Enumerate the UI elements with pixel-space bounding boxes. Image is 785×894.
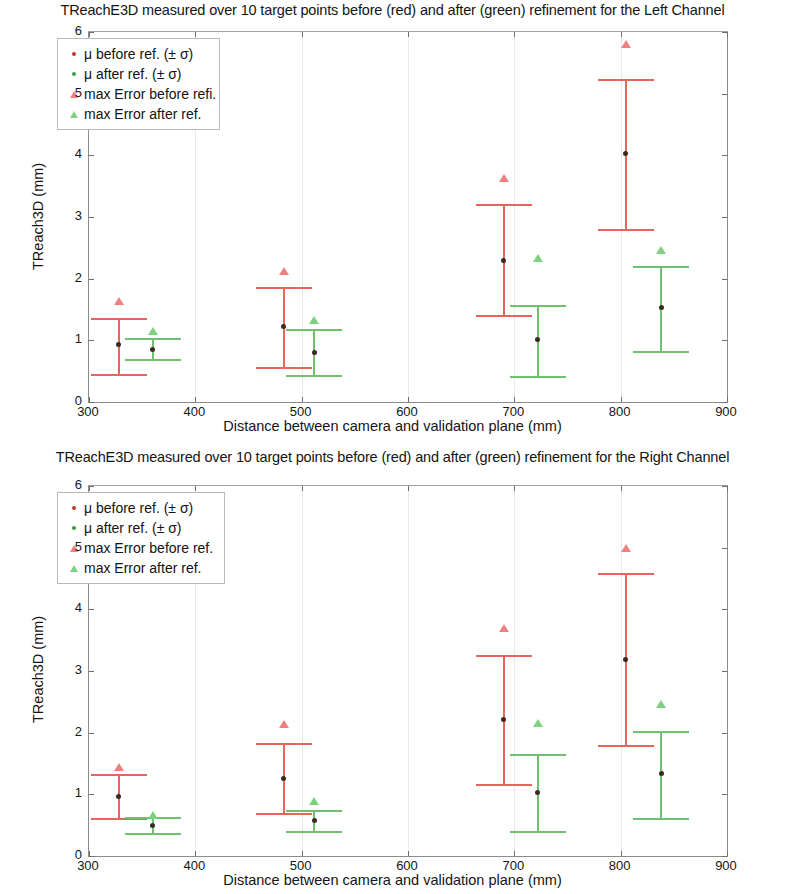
x-axis-tick-label: 800: [590, 404, 650, 419]
max-error-marker: [533, 254, 543, 262]
x-axis-tick-label: 500: [271, 858, 331, 873]
max-error-marker: [533, 719, 543, 727]
x-axis-tick-label: 400: [164, 858, 224, 873]
mean-marker: [535, 337, 540, 342]
y-axis-tick: [722, 486, 727, 487]
mean-marker: [312, 818, 317, 823]
error-bar-cap: [476, 204, 532, 206]
error-bar-cap: [510, 305, 566, 307]
y-axis-tick: [89, 155, 94, 156]
legend-triangle-icon: [64, 565, 84, 572]
y-axis-tick: [722, 340, 727, 341]
x-axis-tick: [727, 32, 728, 37]
x-axis-tick: [195, 486, 196, 491]
y-axis-tick-label: 0: [52, 393, 82, 408]
x-axis-tick: [195, 851, 196, 856]
y-axis-tick-label: 1: [52, 785, 82, 800]
x-axis-tick: [727, 397, 728, 402]
error-bar-cap: [286, 329, 342, 331]
mean-marker: [501, 258, 506, 263]
mean-marker: [116, 342, 121, 347]
max-error-marker: [279, 720, 289, 728]
legend-item-label: max Error before refi.: [84, 86, 216, 102]
gridline: [514, 486, 515, 856]
y-axis-tick: [89, 32, 94, 33]
error-bar-cap: [476, 655, 532, 657]
x-axis-tick: [408, 851, 409, 856]
max-error-marker: [499, 624, 509, 632]
error-bar-cap: [598, 745, 654, 747]
chart-title-left-channel: TReachE3D measured over 10 target points…: [0, 2, 785, 18]
x-axis-tick: [302, 486, 303, 491]
x-axis-tick: [514, 32, 515, 37]
x-axis-tick: [727, 851, 728, 856]
x-axis-tick: [195, 397, 196, 402]
y-axis-tick: [722, 279, 727, 280]
x-axis-tick: [408, 397, 409, 402]
mean-marker: [312, 350, 317, 355]
mean-marker: [150, 823, 155, 828]
max-error-marker: [621, 544, 631, 552]
x-axis-tick: [514, 397, 515, 402]
mean-marker: [623, 151, 628, 156]
x-axis-tick: [621, 32, 622, 37]
error-bar-cap: [125, 833, 181, 835]
error-bar-cap: [256, 367, 312, 369]
x-axis-tick: [302, 851, 303, 856]
error-bar-cap: [256, 813, 312, 815]
error-bar-cap: [125, 359, 181, 361]
error-bar-cap: [476, 784, 532, 786]
x-axis-label-right-channel: Distance between camera and validation p…: [0, 872, 785, 888]
y-axis-tick-label: 3: [52, 662, 82, 677]
x-axis-tick: [195, 32, 196, 37]
error-bar-cap: [91, 318, 147, 320]
y-axis-tick: [89, 217, 94, 218]
x-axis-tick: [621, 397, 622, 402]
error-bar-cap: [91, 374, 147, 376]
gridline: [621, 32, 622, 402]
gridline: [514, 32, 515, 402]
error-bar-cap: [256, 287, 312, 289]
legend-item-label: max Error after ref.: [84, 106, 201, 122]
y-axis-tick: [89, 279, 94, 280]
x-axis-label-left-channel: Distance between camera and validation p…: [0, 418, 785, 434]
legend-item: μ before ref. (± σ): [64, 44, 211, 64]
y-axis-tick: [89, 794, 94, 795]
x-axis-tick: [514, 851, 515, 856]
legend-dot-icon: [64, 526, 84, 530]
y-axis-tick-label: 3: [52, 208, 82, 223]
y-axis-tick: [722, 609, 727, 610]
y-axis-tick-label: 5: [52, 85, 82, 100]
error-bar-cap: [476, 315, 532, 317]
mean-marker: [535, 790, 540, 795]
y-axis-tick-label: 4: [52, 146, 82, 161]
max-error-marker: [309, 797, 319, 805]
y-axis-tick: [722, 402, 727, 403]
legend-dot-icon: [64, 52, 84, 56]
error-bar-cap: [510, 754, 566, 756]
max-error-marker: [656, 246, 666, 254]
error-bar-cap: [510, 376, 566, 378]
mean-marker: [116, 794, 121, 799]
y-axis-tick: [89, 733, 94, 734]
y-axis-tick: [89, 856, 94, 857]
y-axis-tick: [89, 340, 94, 341]
x-axis-tick-label: 800: [590, 858, 650, 873]
legend-item-label: max Error before ref.: [84, 540, 213, 556]
max-error-marker: [656, 700, 666, 708]
y-axis-label-right-channel: TReach3D (mm): [30, 616, 46, 723]
gridline: [408, 32, 409, 402]
legend-item: μ after ref. (± σ): [64, 518, 216, 538]
y-axis-tick: [89, 671, 94, 672]
y-axis-tick-label: 4: [52, 600, 82, 615]
x-axis-tick: [408, 486, 409, 491]
legend-right-channel: μ before ref. (± σ)μ after ref. (± σ)max…: [57, 492, 225, 584]
legend-item-label: μ before ref. (± σ): [84, 500, 193, 516]
mean-marker: [150, 347, 155, 352]
legend-item-label: μ after ref. (± σ): [84, 66, 182, 82]
mean-marker: [501, 717, 506, 722]
y-axis-tick: [722, 155, 727, 156]
y-axis-tick-label: 0: [52, 847, 82, 862]
error-bar-cap: [286, 831, 342, 833]
x-axis-tick: [727, 486, 728, 491]
